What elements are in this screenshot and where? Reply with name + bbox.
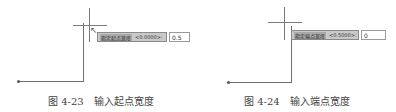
- polyline-start-point: [17, 80, 20, 83]
- dynamic-input-prompt: 指定端点宽度 <0.5000>:: [291, 30, 359, 40]
- figure-caption: 图 4-24输入端点宽度: [244, 93, 350, 108]
- figure-4-24: 指定端点宽度 <0.5000>: 0 图 4-24输入端点宽度: [198, 0, 396, 112]
- crosshair-horizontal: [268, 22, 302, 23]
- caption-number: 图 4-23: [48, 96, 84, 107]
- width-input-field[interactable]: 0.5: [169, 32, 190, 42]
- polyline-start-point: [227, 81, 230, 84]
- prompt-label: 指定起点宽度: [100, 34, 132, 41]
- caption-text: 输入起点宽度: [94, 96, 154, 107]
- figure-caption: 图 4-23输入起点宽度: [48, 93, 154, 108]
- caption-number: 图 4-24: [244, 96, 280, 107]
- prompt-default-value: <0.0000>:: [135, 34, 163, 40]
- polyline-vertical-segment: [83, 23, 84, 81]
- figure-4-23: ↖ 指定起点宽度 <0.0000>: 0.5 图 4-23输入起点宽度: [0, 0, 198, 112]
- polyline-horizontal-segment: [18, 81, 84, 82]
- dynamic-input-prompt: 指定起点宽度 <0.0000>:: [97, 32, 167, 42]
- polyline-horizontal-segment: [228, 82, 292, 83]
- crosshair-vertical: [284, 7, 285, 40]
- prompt-default-value: <0.5000>:: [329, 32, 357, 38]
- caption-text: 输入端点宽度: [290, 96, 350, 107]
- prompt-label: 指定端点宽度: [294, 32, 326, 39]
- width-input-field[interactable]: 0: [361, 30, 386, 40]
